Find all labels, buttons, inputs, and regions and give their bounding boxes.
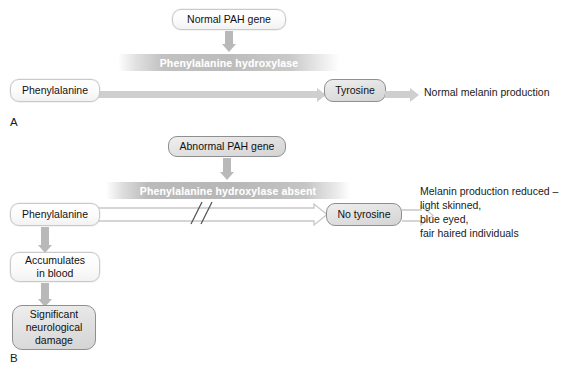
panel-a-gene-box: Normal PAH gene [172,9,286,30]
panel-b-gene-to-enzyme-arrow [223,158,231,180]
panel-b-enzyme-label: Phenylalanine hydroxylase absent [106,182,350,199]
panel-b-substrate-box: Phenylalanine [10,203,100,226]
panel-b-damage-arrow [41,283,49,307]
pku-pathway-figure: Normal PAH gene Phenylalanine hydroxylas… [0,0,568,371]
panel-b-pathway-block-marks [188,200,218,226]
panel-b-letter: B [10,352,18,364]
panel-a-product-box: Tyrosine [324,79,386,102]
panel-b-accumulation-arrow [41,227,49,253]
panel-a-outcome-text: Normal melanin production [424,85,564,99]
panel-b-accumulation-box: Accumulates in blood [10,252,100,282]
panel-a-gene-to-enzyme-arrow [225,31,233,52]
panel-a-letter: A [10,116,18,128]
panel-b-outcome-text: Melanin production reduced – light skinn… [420,184,568,240]
panel-b-product-box: No tyrosine [326,203,402,226]
panel-b-damage-box: Significant neurological damage [12,305,96,350]
panel-b-gene-box: Abnormal PAH gene [168,136,286,157]
panel-a-enzyme-label: Phenylalanine hydroxylase [118,54,340,71]
panel-a-substrate-box: Phenylalanine [10,79,100,102]
